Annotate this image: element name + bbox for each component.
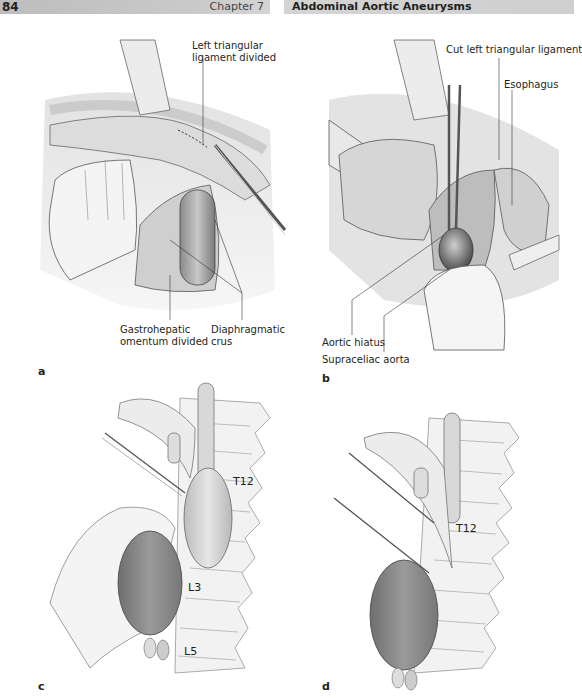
header-right-bar: Abdominal Aortic Aneurysms	[284, 0, 574, 14]
vertebra-label-l3: L3	[188, 582, 201, 594]
annotation-aortic-hiatus: Aortic hiatus	[322, 337, 385, 349]
annotation-left-triangular-ligament: Left triangular ligament divided	[192, 40, 276, 64]
surgical-illustration-b	[284, 20, 574, 370]
figure-panel-c: T12 L3 L5 c	[0, 378, 290, 698]
annotation-cut-left-triangular-ligament: Cut left triangular ligament	[446, 44, 582, 56]
panel-label-c: c	[38, 680, 45, 693]
annotation-supraceliac-aorta: Supraceliac aorta	[322, 354, 410, 366]
aneurysm-spine-illustration-d	[284, 378, 574, 698]
figure-panel-a: Left triangular ligament divided Gastroh…	[0, 20, 290, 370]
panel-label-d: d	[322, 680, 330, 693]
header-left-bar: 84 Chapter 7	[0, 0, 270, 14]
annotation-gastrohepatic-omentum: Gastrohepatic omentum divided	[120, 324, 208, 348]
figure-panel-b: Cut left triangular ligament Esophagus A…	[284, 20, 574, 370]
surgical-illustration-a	[0, 20, 290, 370]
running-title: Abdominal Aortic Aneurysms	[292, 0, 472, 14]
vertebra-label-t12: T12	[233, 476, 254, 488]
annotation-diaphragmatic-crus: Diaphragmatic crus	[211, 324, 285, 348]
vertebra-label-t12: T12	[456, 523, 477, 535]
page-number: 84	[2, 0, 19, 14]
panel-label-a: a	[38, 365, 45, 378]
vertebra-label-l5: L5	[184, 646, 197, 658]
figure-panel-d: T12 d	[284, 378, 574, 698]
annotation-esophagus: Esophagus	[504, 79, 558, 91]
aneurysm-spine-illustration-c	[0, 378, 290, 698]
chapter-label: Chapter 7	[210, 0, 264, 14]
